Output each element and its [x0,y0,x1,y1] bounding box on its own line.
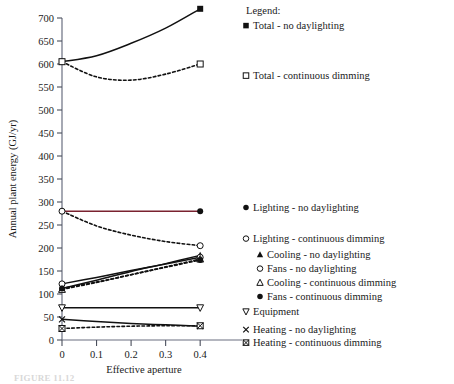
legend-item[interactable]: Fans - no daylighting [257,263,357,274]
legend-item[interactable]: Lighting - continuous dimming [243,233,385,244]
legend-item[interactable]: Lighting - no daylighting [243,202,359,213]
y-tick-label: 300 [38,197,54,208]
y-tick-label: 350 [38,174,54,185]
y-tick-label: 500 [38,105,54,116]
series-line [62,257,200,284]
legend-label: Cooling - no daylighting [267,249,371,260]
y-tick-label: 450 [38,128,54,139]
data-series [59,257,203,292]
legend-item[interactable]: Fans - continuous dimming [257,291,383,302]
data-series [59,305,204,312]
x-tick-label: 0.2 [125,349,138,360]
y-tick-label: 600 [38,59,54,70]
y-tick-label: 550 [38,82,54,93]
legend-label: Fans - continuous dimming [267,291,383,302]
y-tick-label: 100 [38,289,54,300]
y-tick-label: 650 [38,36,54,47]
legend-label: Lighting - continuous dimming [253,233,385,244]
legend-item[interactable]: Equipment [243,306,299,317]
figure-caption: FIGURE 11.12 [14,373,75,383]
legend-label: Equipment [253,306,299,317]
legend-label: Cooling - continuous dimming [267,277,397,288]
data-series [59,252,204,292]
x-tick-label: 0.4 [194,349,208,360]
y-tick-label: 150 [38,266,54,277]
legend-item[interactable]: Heating - no daylighting [243,324,356,335]
x-tick-label: 0 [59,349,64,360]
legend-label: Heating - continuous dimming [253,337,382,348]
legend-label: Fans - no daylighting [267,263,357,274]
data-series [59,208,203,214]
data-series [59,316,203,329]
y-tick-label: 50 [44,312,55,323]
series-group [59,6,204,332]
legend-item[interactable]: Total - no daylighting [243,20,345,31]
series-line [62,260,200,289]
legend: Legend:Total - no daylightingTotal - con… [243,5,397,348]
x-tick-group: 00.10.20.30.4 [59,340,207,360]
y-tick-label: 250 [38,220,54,231]
y-tick-group: 0501001502002503003504004505005506006507… [38,13,62,346]
series-line [62,255,200,288]
y-tick-label: 700 [38,13,54,24]
x-tick-label: 0.3 [159,349,172,360]
data-series [59,208,203,249]
figure-container: 0501001502002503003504004505005506006507… [0,0,454,384]
y-tick-label: 200 [38,243,54,254]
y-tick-label: 400 [38,151,54,162]
legend-item[interactable]: Heating - continuous dimming [243,337,382,348]
legend-label: Total - continuous dimming [253,70,371,81]
legend-label: Lighting - no daylighting [253,202,360,213]
series-line [62,62,200,81]
data-series [59,6,203,65]
legend-item[interactable]: Cooling - no daylighting [257,249,371,260]
legend-label: Heating - no daylighting [253,324,357,335]
legend-item[interactable]: Total - continuous dimming [243,70,370,81]
legend-label: Total - no daylighting [253,20,345,31]
series-line [62,9,200,62]
series-line [62,211,200,246]
y-tick-label: 0 [49,335,54,346]
legend-title: Legend: [246,5,280,16]
axes [62,18,242,340]
series-line [62,326,200,329]
data-series [59,59,203,81]
chart-canvas: 0501001502002503003504004505005506006507… [0,0,454,384]
x-tick-label: 0.1 [90,349,103,360]
y-axis-title: Annual plant energy (GJ/yr) [7,119,19,238]
legend-item[interactable]: Cooling - continuous dimming [257,277,397,288]
x-axis-title: Effective aperture [106,364,182,375]
